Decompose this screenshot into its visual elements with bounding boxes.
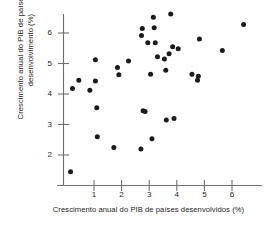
data-point <box>126 59 131 64</box>
x-tick-label: 5 <box>197 190 211 199</box>
x-tick-label: 3 <box>142 190 156 199</box>
data-point <box>115 65 120 70</box>
data-point <box>139 33 144 38</box>
data-point <box>143 109 148 114</box>
data-point <box>93 57 98 62</box>
data-point <box>152 25 157 30</box>
data-point <box>197 37 202 42</box>
data-point <box>220 48 225 53</box>
x-tick-label: 1 <box>87 190 101 199</box>
y-tick-label: 3 <box>40 120 52 129</box>
data-point <box>138 146 143 151</box>
y-tick-label: 5 <box>40 59 52 68</box>
data-point <box>176 46 181 51</box>
data-point <box>151 15 156 20</box>
data-point <box>70 86 75 91</box>
data-point <box>94 105 99 110</box>
data-point <box>87 88 92 93</box>
y-tick-label: 6 <box>40 28 52 37</box>
data-point <box>76 78 81 83</box>
data-point <box>163 68 168 73</box>
data-point <box>241 22 246 27</box>
data-point <box>167 51 172 56</box>
axes-group <box>57 14 262 186</box>
data-point <box>111 145 116 150</box>
data-points-group <box>68 12 246 175</box>
data-point <box>155 54 160 59</box>
data-point <box>68 169 73 174</box>
data-point <box>148 72 153 77</box>
y-tick-label: 4 <box>40 89 52 98</box>
data-point <box>93 78 98 83</box>
x-tick-label: 4 <box>170 190 184 199</box>
data-point <box>149 136 154 141</box>
data-point <box>95 134 100 139</box>
data-point <box>164 117 169 122</box>
data-point <box>162 56 167 61</box>
data-point <box>189 72 194 77</box>
data-point <box>145 40 150 45</box>
data-point <box>172 116 177 121</box>
data-point <box>196 74 201 79</box>
data-point <box>170 44 175 49</box>
data-point <box>168 12 173 17</box>
data-point <box>140 26 145 31</box>
x-tick-label: 2 <box>115 190 129 199</box>
scatter-plot-figure: Crescimento anual do PIB de países em de… <box>0 0 275 241</box>
data-point <box>153 40 158 45</box>
data-point <box>116 72 121 77</box>
y-tick-label: 2 <box>40 150 52 159</box>
x-tick-label: 6 <box>225 190 239 199</box>
